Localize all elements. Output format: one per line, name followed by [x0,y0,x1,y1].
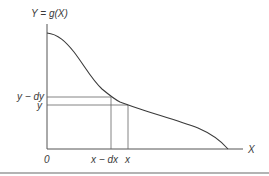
x-axis-label: X [247,144,255,155]
transformation-diagram: Y = g(X) X 0 y − dy y x − dx x [0,0,269,176]
y-tick-label-y: y [36,100,43,111]
x-tick-label-x: x [124,154,131,165]
x-tick-label-x-minus-dx: x − dx [90,154,119,165]
origin-label: 0 [44,154,50,165]
function-curve [47,33,228,149]
y-axis-label: Y = g(X) [31,8,68,19]
